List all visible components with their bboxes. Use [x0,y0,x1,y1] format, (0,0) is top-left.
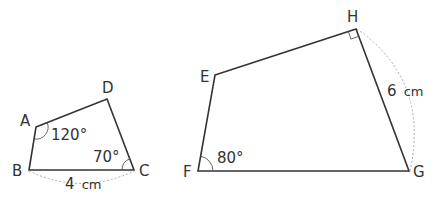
side-length-bc-unit: cm [82,177,102,192]
vertex-label-f: F [183,163,192,181]
vertex-label-a: A [20,112,31,130]
vertex-label-b: B [12,162,22,180]
quadrilateral-efgh: E H F G 80° 6 cm [183,8,425,181]
side-length-bc: 4 cm [65,174,101,193]
quadrilateral-abcd: A D B C 120° 70° 4 cm [12,79,149,193]
angle-arc-f [201,156,213,171]
side-length-hg: 6 cm [387,81,423,100]
angle-label-f: 80° [217,149,244,167]
angle-label-c: 70° [93,148,120,166]
angle-label-a: 120° [51,126,87,144]
side-length-hg-value: 6 [387,82,397,100]
vertex-label-g: G [413,163,425,181]
angle-arc-c [122,159,130,170]
vertex-label-h: H [347,8,358,26]
vertex-label-e: E [200,68,209,86]
measure-arc-hg [357,29,414,171]
side-length-hg-unit: cm [404,84,424,99]
vertex-label-d: D [102,79,114,97]
vertex-label-c: C [139,162,149,180]
side-length-bc-value: 4 [65,175,75,193]
diagram-canvas: A D B C 120° 70° 4 cm E H F G 80° 6 cm [0,0,436,198]
